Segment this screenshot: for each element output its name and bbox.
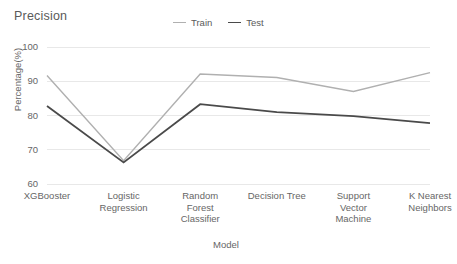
x-tick-label: LogisticRegression xyxy=(91,190,157,213)
x-tick-label: XGBooster xyxy=(14,190,80,202)
x-tick-label-line: Support xyxy=(320,190,386,202)
y-tick-label: 60 xyxy=(27,179,38,189)
x-tick-label-line: Forest xyxy=(167,202,233,214)
y-tick-label: 90 xyxy=(27,77,38,87)
series-line-test xyxy=(47,104,430,162)
x-tick-label: Decision Tree xyxy=(244,190,310,202)
legend-swatch-test xyxy=(228,22,241,23)
chart-legend: Train Test xyxy=(173,17,264,28)
legend-label-test: Test xyxy=(246,17,263,28)
plot-area xyxy=(47,47,430,184)
x-tick-label-line: Neighbors xyxy=(397,202,457,214)
x-tick-label: SupportVectorMachine xyxy=(320,190,386,225)
x-tick-label-line: Decision Tree xyxy=(244,190,310,202)
legend-label-train: Train xyxy=(191,17,212,28)
x-tick-label-line: Random xyxy=(167,190,233,202)
x-tick-label: RandomForestClassifier xyxy=(167,190,233,225)
y-axis-title: Percentage(%) xyxy=(12,25,23,135)
x-tick-label-line: XGBooster xyxy=(14,190,80,202)
chart-title: Precision xyxy=(14,9,67,23)
x-tick-label-line: Machine xyxy=(320,213,386,225)
x-tick-label: K NearestNeighbors xyxy=(397,190,457,213)
legend-swatch-train xyxy=(173,22,186,23)
x-axis-title: Model xyxy=(0,239,452,250)
x-tick-label-line: Regression xyxy=(91,202,157,214)
legend-item-train[interactable]: Train xyxy=(173,17,212,28)
x-tick-label-line: Vector xyxy=(320,202,386,214)
x-tick-label-line: K Nearest xyxy=(397,190,457,202)
y-tick-label: 80 xyxy=(27,111,38,121)
y-tick-label: 70 xyxy=(27,145,38,155)
x-tick-label-line: Logistic xyxy=(91,190,157,202)
x-tick-label-line: Classifier xyxy=(167,213,233,225)
x-axis-ticks: XGBoosterLogisticRegressionRandomForestC… xyxy=(47,190,430,236)
y-tick-label: 100 xyxy=(22,42,38,52)
plot-svg xyxy=(47,47,430,184)
legend-item-test[interactable]: Test xyxy=(228,17,263,28)
